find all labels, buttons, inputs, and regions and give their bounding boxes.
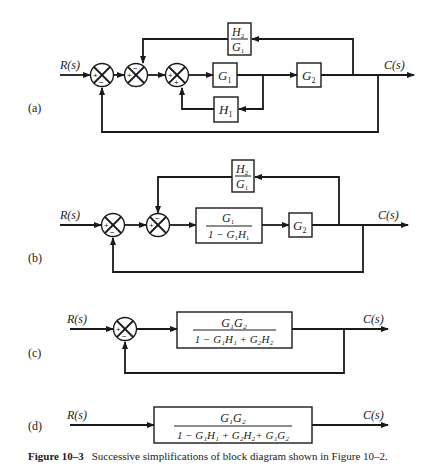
- svg-text:+: +: [93, 71, 98, 80]
- panel-label-a: (a): [28, 101, 41, 115]
- summing-junction-a3: + +: [166, 64, 189, 88]
- output-label-c: C(s): [363, 312, 384, 326]
- block-overall-d: G₁G₂ 1 − G₁H₁ + G₂H₂+ G₁G₂: [154, 407, 312, 443]
- input-label-d: R(s): [66, 408, 87, 422]
- svg-text:G₁G₂: G₁G₂: [221, 316, 247, 330]
- summing-junction-b1: + −: [102, 214, 125, 238]
- summing-junction-b2: + −: [147, 214, 170, 237]
- svg-text:−: −: [122, 332, 127, 341]
- panel-d: (d) R(s) C(s) G₁G₂ 1 − G₁H₁ + G₂H₂+ G₁G₂: [28, 407, 388, 443]
- svg-text:G₁G₂: G₁G₂: [220, 411, 246, 425]
- block-h1-a: H1: [214, 97, 238, 122]
- output-label-b: C(s): [378, 208, 399, 222]
- svg-text:+: +: [104, 221, 109, 230]
- svg-text:+: +: [116, 325, 121, 334]
- summing-junction-a1: + −: [91, 64, 114, 88]
- svg-text:+: +: [174, 78, 179, 87]
- block-g1-a: G1: [213, 63, 237, 87]
- svg-text:+: +: [168, 71, 173, 80]
- panel-a: (a) R(s) C(s) + − + − + +: [28, 23, 414, 132]
- input-label-b: R(s): [59, 208, 80, 222]
- svg-text:1 − G₁H₁ + G₂H₂+ G₁G₂: 1 − G₁H₁ + G₂H₂+ G₁G₂: [177, 429, 289, 441]
- svg-text:−: −: [155, 214, 160, 223]
- block-h2-over-g1-a: H2 G1: [228, 23, 251, 55]
- summing-junction-c1: + −: [114, 318, 137, 342]
- summing-junction-a2: + −: [125, 64, 148, 87]
- svg-text:+: +: [127, 71, 132, 80]
- panel-label-b: (b): [28, 251, 42, 265]
- block-diagram-figure: (a) R(s) C(s) + − + − + +: [0, 0, 431, 468]
- panel-b: (b) R(s) C(s) + − + − G1 1 − G1H1: [28, 160, 408, 272]
- block-h2-over-g1-b: H2 G1: [232, 160, 254, 192]
- figure-caption: Figure 10–3Successive simplifications of…: [28, 450, 388, 462]
- panel-label-d: (d): [28, 419, 42, 433]
- svg-text:1 − G1H1: 1 − G1H1: [208, 228, 250, 242]
- svg-text:−: −: [133, 64, 138, 73]
- input-label-c: R(s): [66, 312, 87, 326]
- block-closed-loop-c: G₁G₂ 1 − G₁H₁ + G₂H₂: [177, 312, 292, 348]
- input-label-a: R(s): [59, 58, 80, 72]
- block-g2-a: G2: [297, 63, 321, 87]
- output-label-a: C(s): [384, 58, 405, 72]
- panel-label-c: (c): [28, 346, 41, 360]
- block-g1-over-1-minus-g1h1-b: G1 1 − G1H1: [196, 208, 262, 243]
- panel-c: (c) R(s) C(s) + − G₁G₂ 1 − G₁H₁ + G₂H₂: [28, 312, 388, 373]
- svg-text:1 − G₁H₁ + G₂H₂: 1 − G₁H₁ + G₂H₂: [195, 333, 274, 345]
- svg-text:−: −: [99, 78, 104, 87]
- svg-text:+: +: [149, 221, 154, 230]
- block-g2-b: G2: [289, 213, 312, 237]
- output-label-d: C(s): [363, 408, 384, 422]
- svg-text:−: −: [110, 228, 115, 237]
